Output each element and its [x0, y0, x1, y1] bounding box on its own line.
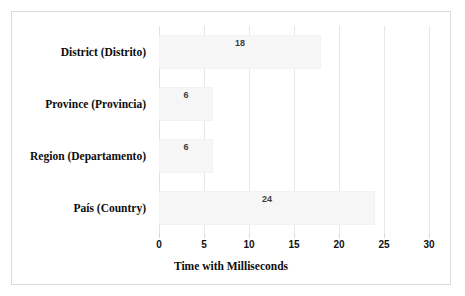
bar-value-label: 18: [235, 38, 245, 48]
bar-value-label: 24: [262, 194, 272, 204]
x-tick-mark: [384, 234, 385, 238]
x-tick-mark: [429, 234, 430, 238]
gridline-30: [429, 26, 430, 234]
bar-row: 6: [159, 130, 429, 182]
category-label: Region (Departamento): [30, 130, 146, 182]
value-axis: 051015202530: [159, 234, 429, 254]
x-tick-label: 10: [243, 239, 254, 250]
bar-row: 24: [159, 182, 429, 234]
x-tick-label: 0: [156, 239, 162, 250]
x-tick-mark: [204, 234, 205, 238]
bar-value-label: 6: [183, 142, 188, 152]
chart-frame: District (Distrito)Province (Provincia)R…: [11, 11, 451, 285]
x-tick-mark: [159, 234, 160, 238]
bar-value-label: 6: [183, 90, 188, 100]
x-tick-label: 5: [201, 239, 207, 250]
bar-row: 6: [159, 78, 429, 130]
plot-area: 186624: [159, 26, 429, 234]
x-tick-mark: [249, 234, 250, 238]
x-tick-mark: [294, 234, 295, 238]
x-tick-label: 15: [288, 239, 299, 250]
category-axis: District (Distrito)Province (Provincia)R…: [12, 26, 152, 234]
x-tick-label: 25: [378, 239, 389, 250]
category-label: District (Distrito): [61, 26, 146, 78]
x-tick-label: 30: [423, 239, 434, 250]
category-label: País (Country): [73, 182, 146, 234]
x-axis-title: Time with Milliseconds: [12, 260, 450, 272]
x-tick-mark: [339, 234, 340, 238]
x-tick-label: 20: [333, 239, 344, 250]
bar-row: 18: [159, 26, 429, 78]
category-label: Province (Provincia): [45, 78, 146, 130]
